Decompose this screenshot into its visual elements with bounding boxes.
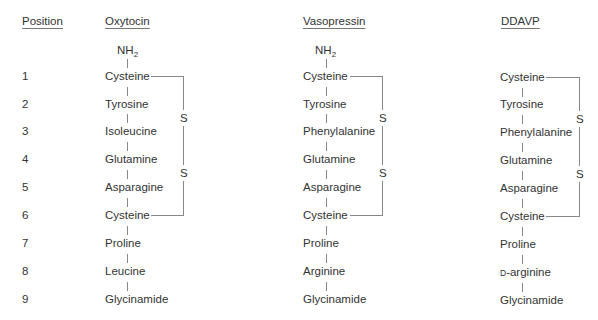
position-number: 9 [22, 292, 28, 306]
position-number: 5 [22, 180, 28, 194]
residue: Glycinamide [105, 292, 168, 306]
residue: Tyrosine [500, 97, 543, 111]
sulfur-label: S [180, 110, 188, 126]
bond-line [326, 142, 327, 151]
bond-line [522, 115, 523, 124]
disulfide-bond-line [382, 76, 383, 216]
sulfur-label: S [576, 111, 584, 127]
bond-line [326, 59, 327, 68]
bond-line [127, 282, 128, 291]
bond-line [127, 87, 128, 96]
bond-line [522, 171, 523, 180]
n-terminus: NH2 [315, 43, 336, 59]
header-vasopressin: Vasopressin [303, 14, 365, 28]
residue: Proline [303, 236, 339, 250]
sulfur-label: S [379, 110, 387, 126]
bond-line [127, 254, 128, 263]
disulfide-bond-line [546, 216, 580, 217]
position-number: 4 [22, 152, 28, 166]
residue: Proline [105, 236, 141, 250]
disulfide-bond-line [151, 215, 184, 216]
residue: Cysteine [105, 208, 150, 222]
residue: Glycinamide [303, 292, 366, 306]
disulfide-bond-line [546, 77, 580, 78]
residue: Cysteine [303, 69, 348, 83]
n-terminus-subscript: 2 [134, 50, 138, 59]
header-ddavp: DDAVP [501, 14, 540, 28]
disulfide-bond-line [183, 76, 184, 216]
residue: Phenylalanine [500, 125, 572, 139]
n-terminus-label: NH [315, 44, 332, 56]
bond-line [522, 143, 523, 152]
residue: Proline [500, 237, 536, 251]
sulfur-label: S [576, 166, 584, 182]
bond-line [522, 199, 523, 208]
header-position: Position [22, 14, 63, 28]
residue: Phenylalanine [303, 124, 375, 138]
disulfide-bond-line [350, 215, 383, 216]
bond-line [326, 282, 327, 291]
bond-line [127, 114, 128, 123]
header-oxytocin: Oxytocin [105, 14, 150, 28]
residue: Asparagine [105, 180, 163, 194]
residue: Cysteine [500, 209, 545, 223]
n-terminus-subscript: 2 [332, 50, 336, 59]
residue: Cysteine [105, 69, 150, 83]
position-number: 7 [22, 236, 28, 250]
residue: Asparagine [303, 180, 361, 194]
bond-line [127, 142, 128, 151]
disulfide-bond-line [151, 76, 184, 77]
position-number: 6 [22, 208, 28, 222]
residue: Glutamine [500, 153, 552, 167]
residue-d-arginine: D-arginine [500, 265, 551, 280]
bond-line [127, 198, 128, 207]
residue: Tyrosine [303, 97, 346, 111]
sulfur-label: S [180, 165, 188, 181]
d-arginine-rest: -arginine [506, 266, 551, 278]
sulfur-label: S [379, 165, 387, 181]
residue: Glutamine [105, 152, 157, 166]
bond-line [522, 88, 523, 97]
residue: Leucine [105, 264, 145, 278]
bond-line [326, 254, 327, 263]
bond-line [127, 59, 128, 68]
residue: Glutamine [303, 152, 355, 166]
bond-line [326, 87, 327, 96]
bond-line [326, 170, 327, 179]
residue: Tyrosine [105, 97, 148, 111]
residue: Cysteine [303, 208, 348, 222]
disulfide-bond-line [350, 76, 383, 77]
bond-line [326, 198, 327, 207]
position-number: 3 [22, 124, 28, 138]
bond-line [522, 283, 523, 292]
residue: Isoleucine [105, 124, 157, 138]
position-number: 1 [22, 69, 28, 83]
residue: Glycinamide [500, 293, 563, 307]
residue: Asparagine [500, 181, 558, 195]
residue: Arginine [303, 264, 345, 278]
bond-line [522, 255, 523, 264]
residue: Cysteine [500, 70, 545, 84]
n-terminus: NH2 [117, 43, 138, 59]
bond-line [127, 226, 128, 235]
n-terminus-label: NH [117, 44, 134, 56]
bond-line [522, 227, 523, 236]
bond-line [127, 170, 128, 179]
bond-line [326, 114, 327, 123]
position-number: 8 [22, 264, 28, 278]
bond-line [326, 226, 327, 235]
disulfide-bond-line [579, 77, 580, 217]
position-number: 2 [22, 97, 28, 111]
